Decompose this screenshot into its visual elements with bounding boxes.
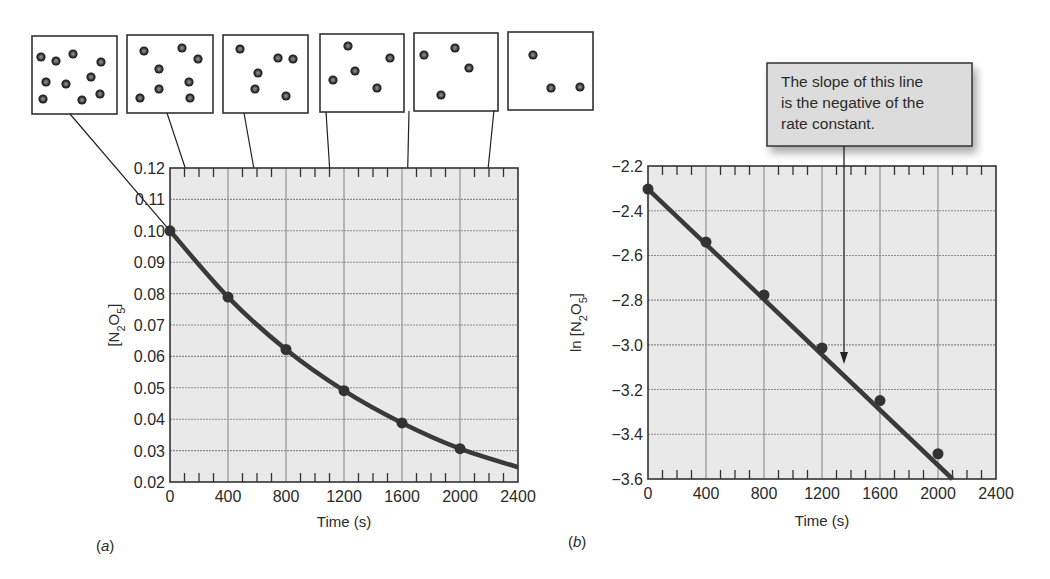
y-tick-label: −3.0 (611, 337, 643, 354)
x-axis-title-b: Time (s) (795, 512, 849, 529)
chart-panel-a: 0.020.030.040.050.060.070.080.090.100.11… (32, 32, 593, 554)
y-tick-label: −2.8 (611, 292, 643, 309)
x-tick-label: 2000 (442, 488, 478, 505)
y-tick-label: 0.08 (134, 286, 165, 303)
molecule-icon (385, 53, 394, 62)
x-tick-labels-a: 04008001200160020002400 (166, 488, 536, 505)
panel-label-a: (a) (96, 537, 114, 554)
y-tick-label: −2.6 (611, 247, 643, 264)
y-tick-label: 0.10 (134, 223, 165, 240)
molecule-icon (77, 95, 86, 104)
chart-panel-b: −3.6−3.4−3.2−3.0−2.8−2.6−2.4−2.2 0400800… (567, 63, 1014, 550)
molecule-icon (96, 57, 105, 66)
x-tick-label: 0 (644, 485, 653, 502)
molecule-icon (139, 46, 148, 55)
molecule-box-frame (320, 34, 404, 112)
molecule-icon (185, 93, 194, 102)
molecule-icon (575, 82, 584, 91)
molecule-icon (235, 44, 244, 53)
annotation-line: The slope of this line (781, 73, 923, 90)
data-point (223, 292, 234, 303)
x-tick-label: 800 (273, 488, 300, 505)
data-point (933, 448, 944, 459)
x-tick-label: 1200 (804, 485, 840, 502)
molecule-icon (436, 90, 445, 99)
data-point (339, 385, 350, 396)
annotation-line: is the negative of the (781, 94, 924, 111)
annotation-line: rate constant. (781, 115, 875, 132)
molecule-box (32, 36, 117, 114)
molecule-icon (86, 72, 95, 81)
molecule-boxes (32, 32, 593, 114)
x-tick-label: 1600 (862, 485, 898, 502)
molecule-icon (450, 43, 459, 52)
data-point (397, 417, 408, 428)
panel-label-b: (b) (568, 533, 586, 550)
molecule-icon (528, 50, 537, 59)
x-tick-label: 400 (215, 488, 242, 505)
molecule-box (508, 32, 593, 110)
y-tick-label: 0.12 (134, 160, 165, 177)
y-tick-label: 0.11 (135, 191, 165, 208)
molecule-icon (41, 77, 50, 86)
y-tick-label: 0.02 (134, 474, 165, 491)
y-tick-label: 0.06 (134, 348, 165, 365)
figure-svg: 0.020.030.040.050.060.070.080.090.100.11… (0, 0, 1050, 579)
data-point (281, 344, 292, 355)
y-tick-label: −3.2 (611, 382, 643, 399)
x-tick-label: 2400 (978, 485, 1014, 502)
data-point (165, 225, 176, 236)
molecule-box-frame (223, 35, 308, 113)
y-tick-label: −2.4 (611, 203, 643, 220)
x-tick-labels-b: 04008001200160020002400 (644, 485, 1014, 502)
y-tick-label: 0.09 (134, 254, 165, 271)
molecule-icon (135, 93, 144, 102)
molecule-box (127, 35, 213, 113)
molecule-box (320, 34, 404, 112)
y-tick-label: 0.07 (134, 317, 165, 334)
y-tick-label: 0.04 (134, 411, 165, 428)
molecule-icon (328, 75, 337, 84)
y-tick-label: −3.6 (611, 471, 643, 488)
molecule-icon (154, 84, 163, 93)
data-point (455, 443, 466, 454)
molecule-box (414, 33, 498, 111)
y-tick-label: −3.4 (611, 426, 643, 443)
molecule-icon (288, 54, 297, 63)
x-tick-label: 2400 (500, 488, 536, 505)
x-tick-label: 0 (166, 488, 175, 505)
y-tick-labels-b: −3.6−3.4−3.2−3.0−2.8−2.6−2.4−2.2 (611, 158, 643, 488)
molecule-icon (281, 91, 290, 100)
molecule-icon (464, 63, 473, 72)
molecule-icon (38, 94, 47, 103)
x-tick-label: 1200 (326, 488, 362, 505)
y-axis-title-a: [N2O5] (105, 303, 127, 346)
molecule-icon (61, 79, 70, 88)
y-tick-labels-a: 0.020.030.040.050.060.070.080.090.100.11… (134, 160, 165, 491)
y-axis-title-b: ln [N2O5] (567, 293, 589, 352)
molecule-icon (68, 49, 77, 58)
molecule-icon (95, 89, 104, 98)
data-point (701, 237, 712, 248)
y-tick-label: 0.03 (134, 443, 165, 460)
molecule-icon (36, 52, 45, 61)
figure: 0.020.030.040.050.060.070.080.090.100.11… (0, 0, 1050, 579)
y-tick-label: −2.2 (611, 158, 643, 175)
molecule-icon (253, 68, 262, 77)
x-tick-label: 2000 (920, 485, 956, 502)
data-point (759, 290, 770, 301)
molecule-icon (184, 77, 193, 86)
x-axis-title-a: Time (s) (317, 513, 371, 530)
molecule-icon (154, 64, 163, 73)
x-tick-label: 1600 (384, 488, 420, 505)
molecule-box-frame (508, 32, 593, 110)
molecule-icon (250, 84, 259, 93)
data-point (817, 342, 828, 353)
molecule-icon (177, 43, 186, 52)
molecule-icon (343, 41, 352, 50)
x-tick-label: 800 (751, 485, 778, 502)
x-tick-label: 400 (693, 485, 720, 502)
molecule-icon (273, 53, 282, 62)
molecule-icon (51, 56, 60, 65)
molecule-icon (350, 66, 359, 75)
